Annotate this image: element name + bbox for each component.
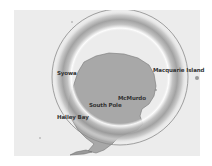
island [71, 21, 72, 22]
label-macquarie-island: Macquarie Island [153, 68, 204, 74]
label-syowa: Syowa [57, 71, 77, 77]
island [195, 76, 199, 80]
peninsula [70, 150, 92, 155]
label-south-pole: South Pole [89, 103, 122, 109]
island [155, 89, 157, 91]
gradient-band [54, 11, 186, 143]
antarctica-map [14, 10, 200, 156]
island [39, 137, 40, 138]
label-mcmurdo: McMurdo [118, 96, 146, 102]
map-canvas [14, 10, 200, 156]
label-halley-bay: Halley Bay [57, 115, 89, 121]
